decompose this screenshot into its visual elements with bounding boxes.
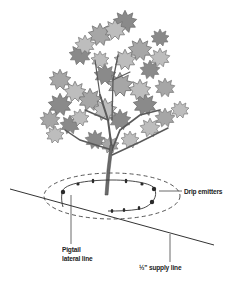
tree-trunk [105,145,113,195]
label-pigtail-line2: lateral line [62,254,92,263]
drip-emitter [111,209,114,213]
drip-emitter [138,206,141,210]
label-supply-line: ½" supply line [139,263,181,272]
drip-emitter [150,200,154,204]
label-drip-emitters: Drip emitters [184,187,222,196]
pigtail-connector [62,193,63,207]
drip-emitter [61,190,65,194]
drip-emitter [152,187,156,191]
supply-line [10,189,214,245]
label-pigtail-line1: Pigtail [62,245,81,254]
drip-emitter [76,182,79,185]
leader-lines [71,191,182,262]
diagram-canvas [0,0,240,286]
drip-emitter [123,208,126,212]
tree-crown [40,10,189,153]
drip-emitter [140,182,143,185]
drip-emitter [125,179,128,183]
drip-emitter [92,179,95,183]
